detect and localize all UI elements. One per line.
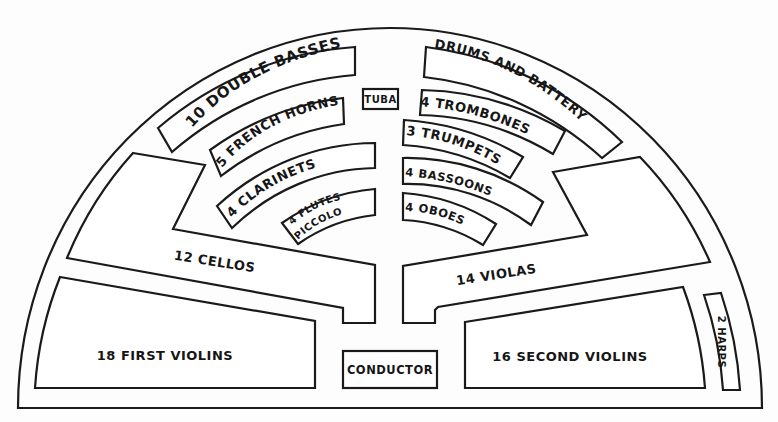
harps-label: 2 HARPS xyxy=(716,316,727,368)
tuba-label: TUBA xyxy=(364,94,396,105)
second-violins-label: 16 SECOND VIOLINS xyxy=(492,349,647,364)
conductor-label: CONDUCTOR xyxy=(347,363,433,377)
section-oboes: 4 OBOES xyxy=(403,193,496,245)
first-violins-label: 18 FIRST VIOLINS xyxy=(97,348,233,363)
section-second-violins: 16 SECOND VIOLINS xyxy=(465,287,705,388)
section-harps: 2 HARPS xyxy=(704,293,740,390)
section-conductor: CONDUCTOR xyxy=(343,351,437,388)
section-flutes-piccolo: 4 FLUTES PICCOLO xyxy=(282,189,375,244)
orchestra-seating-diagram: 10 DOUBLE BASSES TUBA DRUMS AND BATTERY … xyxy=(0,0,778,422)
section-tuba: TUBA xyxy=(363,89,398,109)
